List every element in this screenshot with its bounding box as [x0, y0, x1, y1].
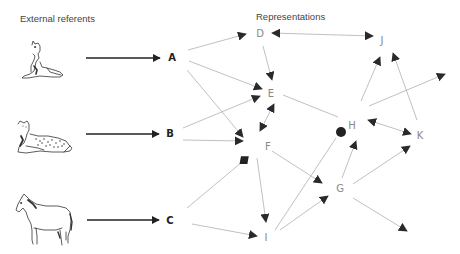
edge-b-e [183, 96, 260, 128]
dog-icon [22, 41, 63, 78]
edge-e-h [283, 95, 338, 117]
black-dot-node [336, 127, 346, 137]
edge-h-j [361, 57, 380, 101]
edge-i-dot [275, 138, 336, 230]
edge-g-h [342, 141, 356, 178]
representation-network-diagram: A B C D E F G H I J K [0, 0, 460, 254]
node-d: D [256, 28, 264, 39]
node-f: F [265, 141, 271, 152]
edge-g-k [353, 146, 410, 184]
node-a: A [168, 52, 176, 63]
edge-a-f [187, 70, 243, 137]
edge-h-out-ne [369, 74, 445, 106]
horse-icon [16, 194, 72, 245]
edge-d-j [272, 33, 373, 36]
edge-h-k [368, 120, 411, 134]
node-h: H [348, 120, 356, 131]
edge-c-f [187, 157, 248, 208]
node-g: G [336, 183, 344, 194]
node-b: B [166, 128, 174, 139]
edge-c-i [192, 224, 257, 236]
edge-b-f [183, 140, 243, 141]
edge-a-d [188, 34, 246, 50]
referent-arrows [86, 58, 160, 220]
edge-e-f [260, 104, 274, 131]
leopard-icon [18, 121, 72, 153]
edge-i-g [280, 196, 328, 230]
edge-k-j [393, 53, 417, 120]
node-j: J [380, 35, 384, 46]
node-i: I [265, 232, 268, 243]
node-labels: A B C D E F G H I J K [166, 28, 424, 243]
node-e: E [268, 88, 274, 99]
network-edges [183, 33, 445, 236]
node-c: C [166, 215, 173, 226]
edge-f-i [257, 158, 266, 222]
edge-d-e [263, 46, 272, 80]
node-k: K [417, 130, 424, 141]
edge-g-out-se [353, 198, 407, 231]
edge-f-g [272, 151, 322, 183]
edge-a-e [189, 61, 262, 89]
